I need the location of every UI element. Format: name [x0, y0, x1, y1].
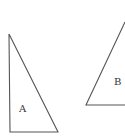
triangle-a — [9, 34, 58, 132]
triangle-b-label: B — [114, 76, 121, 87]
diagram-canvas: A B — [0, 0, 125, 136]
triangle-a-label: A — [18, 103, 27, 114]
triangle-b — [86, 22, 125, 105]
